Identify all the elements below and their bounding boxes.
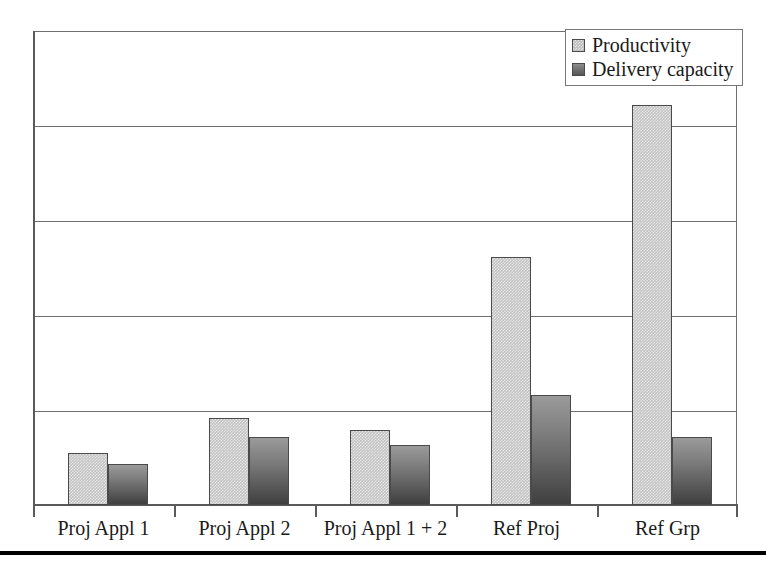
chart-legend: Productivity Delivery capacity <box>565 29 743 86</box>
bar-group-proj-appl-1-plus-2 <box>350 31 431 505</box>
bar-productivity-proj-appl-2[interactable] <box>209 418 249 505</box>
bar-delivery-capacity-proj-appl-1[interactable] <box>108 464 148 505</box>
legend-swatch-delivery-capacity-icon <box>572 63 585 76</box>
bar-delivery-capacity-proj-appl-2[interactable] <box>249 437 289 505</box>
bar-delivery-capacity-ref-proj[interactable] <box>531 395 571 505</box>
x-axis-label-proj-appl-1-plus-2: Proj Appl 1 + 2 <box>315 515 456 541</box>
legend-item-productivity[interactable]: Productivity <box>572 33 734 57</box>
bar-delivery-capacity-proj-appl-1-plus-2[interactable] <box>390 445 430 505</box>
footer-rule <box>0 551 766 555</box>
bar-group-ref-grp <box>632 31 713 505</box>
bar-group-ref-proj <box>491 31 572 505</box>
legend-label-delivery-capacity: Delivery capacity <box>592 58 734 80</box>
x-axis-label-proj-appl-2: Proj Appl 2 <box>174 515 315 541</box>
bar-productivity-proj-appl-1[interactable] <box>68 453 108 505</box>
bar-productivity-proj-appl-1-plus-2[interactable] <box>350 430 390 505</box>
legend-swatch-productivity-icon <box>572 39 585 52</box>
bar-productivity-ref-proj[interactable] <box>491 257 531 505</box>
bar-delivery-capacity-ref-grp[interactable] <box>672 437 712 505</box>
legend-item-delivery-capacity[interactable]: Delivery capacity <box>572 57 734 81</box>
bar-group-proj-appl-2 <box>209 31 290 505</box>
bar-productivity-ref-grp[interactable] <box>632 105 672 505</box>
bar-group-proj-appl-1 <box>68 31 149 505</box>
bars-layer <box>33 31 737 505</box>
x-axis-label-ref-grp: Ref Grp <box>597 515 738 541</box>
bar-chart-figure: Proj Appl 1 Proj Appl 2 Proj Appl 1 + 2 … <box>0 0 766 573</box>
legend-label-productivity: Productivity <box>592 34 691 56</box>
x-axis-label-ref-proj: Ref Proj <box>456 515 597 541</box>
x-axis-label-proj-appl-1: Proj Appl 1 <box>33 515 174 541</box>
